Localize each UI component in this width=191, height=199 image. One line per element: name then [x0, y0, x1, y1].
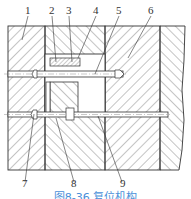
part-3-spring [50, 58, 80, 66]
part-6-right-block [105, 26, 160, 170]
far-right-block [160, 26, 185, 170]
label-2: 2 [49, 5, 55, 16]
label-1: 1 [25, 5, 31, 16]
part-1-left-block [8, 26, 45, 170]
label-6: 6 [148, 5, 154, 16]
label-5: 5 [116, 5, 122, 16]
figure-caption: 图8-36 复位机构 [0, 188, 191, 199]
mechanism-section-drawing [0, 0, 191, 199]
label-4: 4 [93, 5, 99, 16]
label-3: 3 [66, 5, 72, 16]
part-5-upper-rod [4, 70, 126, 78]
